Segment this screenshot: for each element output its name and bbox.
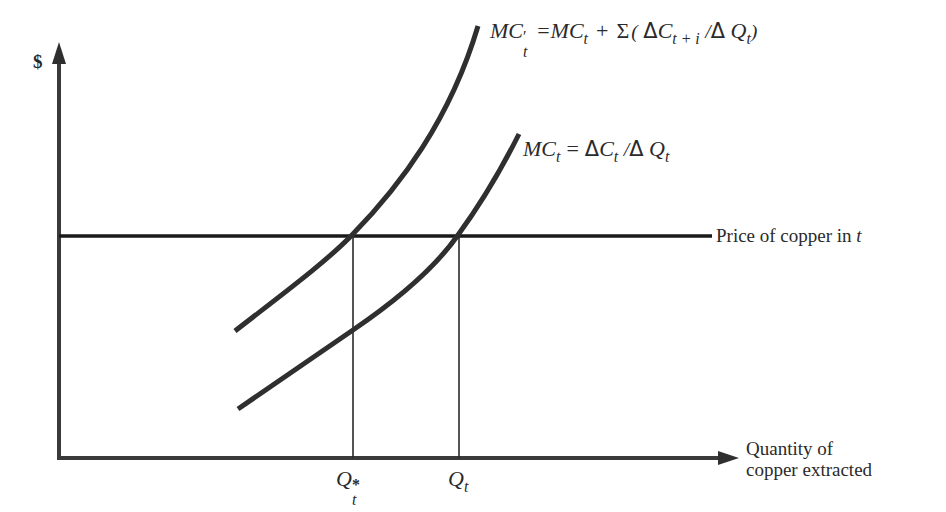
mc-c-subscript: t <box>614 148 618 165</box>
x-axis-label-line1: Quantity of <box>746 438 872 459</box>
q-t-subscript: t <box>464 478 468 495</box>
x-axis-label-line2: copper extracted <box>746 459 872 480</box>
open-paren: ( <box>631 20 638 42</box>
price-label-text: Price of copper in <box>716 225 856 246</box>
mc-c: C <box>599 136 614 161</box>
mc-q-subscript: t <box>665 148 669 165</box>
x-axis-arrow-icon <box>718 451 739 465</box>
mc-prime-q: Q <box>731 18 747 43</box>
mc-prime-q-subscript: t <box>746 30 750 47</box>
mc-q: Q <box>649 136 665 161</box>
delta-icon: Δ <box>585 137 599 161</box>
mc-curve-label: MCt=ΔCt /Δ Qt <box>523 138 669 160</box>
mc-prime-curve <box>235 26 478 331</box>
mc-prime-rhs-mc-subscript: t <box>584 30 588 47</box>
y-axis-arrow-icon <box>52 42 66 64</box>
delta-icon: Δ <box>643 19 657 43</box>
mc-curve <box>238 134 519 409</box>
q-t-main: Q <box>448 466 464 491</box>
delta-icon: Δ <box>711 19 725 43</box>
mc-prime-curve-label: MC′t=MCt+Σ( ΔCt + i /Δ Qt) <box>490 20 757 42</box>
sigma-icon: Σ <box>616 18 631 43</box>
x-axis-label: Quantity of copper extracted <box>746 438 872 480</box>
mc-lhs: MC <box>523 136 556 161</box>
delta-icon: Δ <box>629 137 643 161</box>
equals-sign: = <box>536 18 550 43</box>
q-t-label: Qt <box>448 468 468 490</box>
q-star-main: Q <box>336 466 352 491</box>
mc-lhs-subscript: t <box>556 148 560 165</box>
plus-sign: + <box>588 18 616 43</box>
mc-prime-c: C <box>658 18 673 43</box>
mc-prime-rhs-mc: MC <box>551 18 584 43</box>
equals-sign: = <box>560 136 584 161</box>
mc-prime-lhs-subscript: t <box>523 44 527 60</box>
close-paren: ) <box>751 20 758 42</box>
diagram-canvas <box>0 0 946 512</box>
mc-prime-lhs: MC <box>490 18 523 43</box>
price-label-var: t <box>856 225 861 246</box>
mc-prime-c-subscript: t + i <box>672 30 699 47</box>
price-line-label: Price of copper in t <box>716 226 862 245</box>
y-axis-label: $ <box>33 52 43 71</box>
q-star-subscript: t <box>352 492 356 508</box>
q-star-label: Q*t <box>336 468 365 490</box>
